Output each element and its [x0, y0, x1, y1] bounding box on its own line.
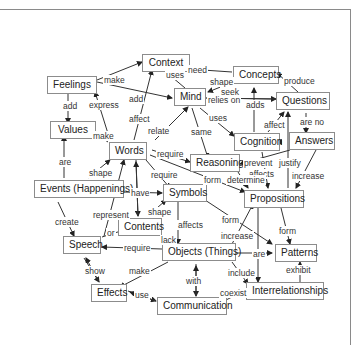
edge-label-create: create	[54, 217, 80, 227]
edge-label-exhibit: exhibit	[285, 265, 312, 275]
node-words[interactable]: Words	[109, 142, 147, 160]
edge-label-with: with	[185, 276, 202, 286]
edge-label-increase-propositions: increase	[220, 231, 254, 241]
edge-label-require-symbols: require	[150, 170, 178, 180]
edge-label-are: are	[58, 157, 72, 167]
edge-label-include: include	[227, 268, 256, 278]
edge-label-make-effects: make	[128, 266, 151, 276]
edge-label-relies-on: relies on	[207, 95, 241, 105]
edge-label-determine: determine	[226, 175, 266, 185]
edge-label-justify: justify	[278, 158, 302, 168]
edge-label-lack: lack	[160, 235, 177, 245]
edge-label-require: require	[156, 149, 184, 159]
edge-label-prevent: prevent	[243, 158, 273, 168]
node-feelings[interactable]: Feelings	[47, 76, 97, 94]
edge-label-make: make	[103, 75, 126, 85]
edge-label-same: same	[190, 127, 213, 137]
node-questions[interactable]: Questions	[276, 92, 330, 110]
edge-label-represent: represent	[92, 210, 130, 220]
node-mind[interactable]: Mind	[174, 88, 206, 106]
edge-label-require-speech: require	[123, 243, 151, 253]
edge-label-need: need	[187, 65, 208, 75]
edge-label-shape-words: shape	[88, 168, 113, 178]
node-effects[interactable]: Effects	[91, 284, 127, 302]
node-concepts[interactable]: Concepts	[233, 66, 279, 84]
node-reasoning[interactable]: Reasoning	[190, 154, 240, 172]
node-patterns[interactable]: Patterns	[275, 244, 317, 262]
edge-label-form-propositions: form	[278, 226, 297, 236]
edge-label-add-mind: add	[128, 94, 144, 104]
node-speech[interactable]: Speech	[63, 236, 101, 254]
edge-label-have: have	[130, 188, 150, 198]
edge-label-coexist: coexist	[219, 288, 247, 298]
edge-label-affects-objects: affects	[177, 220, 204, 230]
edge-label-affect-questions: affect	[263, 120, 286, 130]
edge-label-produce: produce	[283, 76, 316, 86]
node-cognition[interactable]: Cognition	[234, 133, 280, 151]
edge-label-shape-contents: shape	[147, 207, 172, 217]
edge-label-relate: relate	[147, 126, 170, 136]
edge-label-show: show	[84, 266, 106, 276]
edge-label-increase: increase	[291, 171, 325, 181]
edge-label-shape: shape	[209, 77, 234, 87]
node-answers[interactable]: Answers	[289, 132, 335, 150]
node-symbols[interactable]: Symbols	[163, 184, 207, 202]
edge-label-uses: uses	[165, 70, 185, 80]
edge-label-are-patterns: are	[252, 249, 266, 259]
edge-label-form: form	[203, 175, 222, 185]
node-values[interactable]: Values	[50, 121, 96, 139]
node-objects[interactable]: Objects (Things)	[162, 243, 236, 261]
edge-label-express: express	[88, 100, 120, 110]
edge-label-or: or	[106, 228, 116, 238]
edge-label-uses-cognition: uses	[208, 113, 228, 123]
node-propositions[interactable]: Propositions	[244, 190, 304, 208]
node-contents[interactable]: Contents	[118, 218, 162, 236]
edge-label-are-no: are no	[299, 117, 325, 127]
edge-label-add: add	[62, 101, 78, 111]
node-events[interactable]: Events (Happenings)	[34, 180, 124, 198]
edge-label-use: use	[134, 290, 150, 300]
node-interrelationships[interactable]: Interrelationships	[246, 282, 324, 300]
edge-label-adds: adds	[245, 100, 265, 110]
edge-label-affect: affect	[128, 114, 151, 124]
edge-label-form-patterns: form	[221, 215, 240, 225]
node-communication[interactable]: Communication	[157, 297, 227, 315]
edge-label-make-values: make	[92, 131, 115, 141]
